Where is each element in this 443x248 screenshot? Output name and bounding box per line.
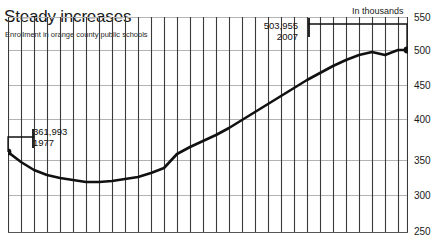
y-tick-300: 300 bbox=[414, 190, 431, 201]
y-tick-250: 250 bbox=[414, 226, 431, 237]
chart-screenshot: Steady increases Enrollment in orange co… bbox=[0, 0, 443, 248]
y-tick-550: 550 bbox=[414, 12, 431, 23]
start-annotation-year: 1977 bbox=[33, 137, 67, 148]
end-annotation-value: 503,955 bbox=[264, 20, 298, 31]
start-annotation: 361,993 1977 bbox=[33, 126, 67, 148]
end-annotation: 503,955 2007 bbox=[264, 20, 298, 42]
start-annotation-bracket bbox=[8, 135, 36, 161]
y-tick-350: 350 bbox=[414, 155, 431, 166]
y-tick-400: 400 bbox=[414, 114, 431, 125]
y-tick-450: 450 bbox=[414, 80, 431, 91]
enrollment-line bbox=[8, 50, 407, 182]
end-annotation-year: 2007 bbox=[264, 31, 298, 42]
y-tick-500: 500 bbox=[414, 45, 431, 56]
units-label: In thousands bbox=[352, 6, 404, 16]
end-annotation-bracket bbox=[306, 22, 410, 52]
start-annotation-value: 361,993 bbox=[33, 126, 67, 137]
